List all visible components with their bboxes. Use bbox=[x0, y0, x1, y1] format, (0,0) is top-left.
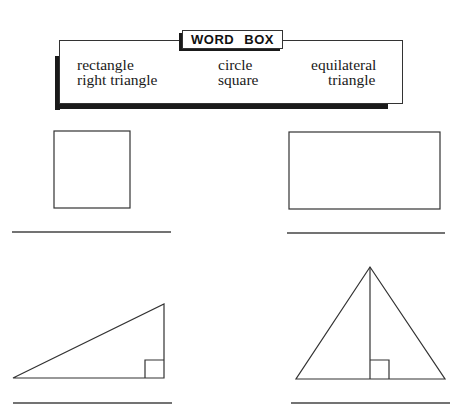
right-angle-marker bbox=[370, 360, 389, 379]
rectangle-shape bbox=[289, 132, 440, 209]
right-triangle-shape bbox=[13, 304, 164, 378]
right-angle-marker bbox=[145, 360, 164, 378]
shapes-canvas bbox=[0, 0, 461, 416]
equilateral-triangle-shape bbox=[296, 267, 445, 379]
square-shape bbox=[54, 131, 130, 208]
